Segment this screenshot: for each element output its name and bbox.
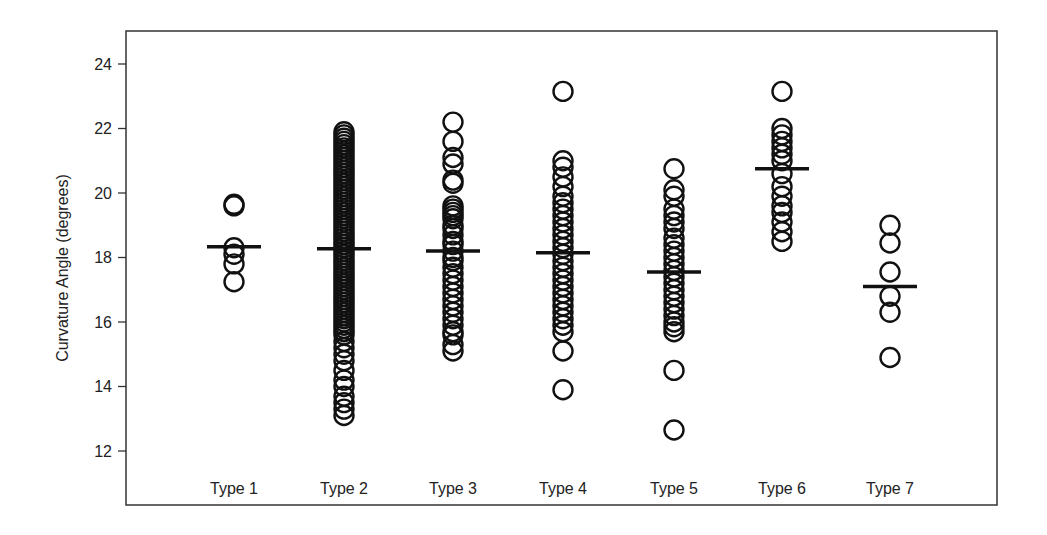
y-tick-label: 20: [94, 185, 112, 202]
plot-frame: [126, 31, 997, 505]
data-point-marker: [665, 361, 684, 380]
dot-plot-chart: 12141618202224 Curvature Angle (degrees)…: [0, 0, 1047, 535]
data-points: [225, 82, 900, 440]
series-type-5: [665, 159, 684, 439]
category-labels: Type 1Type 2Type 3Type 4Type 5Type 6Type…: [210, 480, 914, 497]
data-point-marker: [665, 159, 684, 178]
series-type-2: [335, 122, 354, 425]
data-point-marker: [554, 380, 573, 399]
category-label: Type 3: [429, 480, 477, 497]
y-axis: 12141618202224: [94, 56, 126, 460]
y-axis-title: Curvature Angle (degrees): [54, 174, 71, 362]
category-label: Type 4: [539, 480, 587, 497]
series-type-1: [225, 195, 244, 291]
category-label: Type 1: [210, 480, 258, 497]
data-point-marker: [881, 348, 900, 367]
data-point-marker: [773, 82, 792, 101]
category-label: Type 6: [758, 480, 806, 497]
category-label: Type 2: [320, 480, 368, 497]
data-point-marker: [554, 82, 573, 101]
y-tick-label: 18: [94, 249, 112, 266]
series-type-6: [773, 82, 792, 251]
y-tick-label: 12: [94, 443, 112, 460]
data-point-marker: [881, 234, 900, 253]
category-label: Type 7: [866, 480, 914, 497]
series-type-4: [554, 82, 573, 399]
y-tick-label: 24: [94, 56, 112, 73]
category-label: Type 5: [650, 480, 698, 497]
data-point-marker: [881, 216, 900, 235]
y-tick-label: 14: [94, 378, 112, 395]
data-point-marker: [665, 421, 684, 440]
data-point-marker: [225, 196, 244, 215]
series-type-3: [444, 113, 463, 361]
y-tick-label: 16: [94, 314, 112, 331]
data-point-marker: [881, 263, 900, 282]
data-point-marker: [665, 317, 684, 336]
series-type-7: [881, 216, 900, 367]
data-point-marker: [225, 272, 244, 291]
y-tick-label: 22: [94, 120, 112, 137]
data-point-marker: [444, 113, 463, 132]
data-point-marker: [554, 342, 573, 361]
